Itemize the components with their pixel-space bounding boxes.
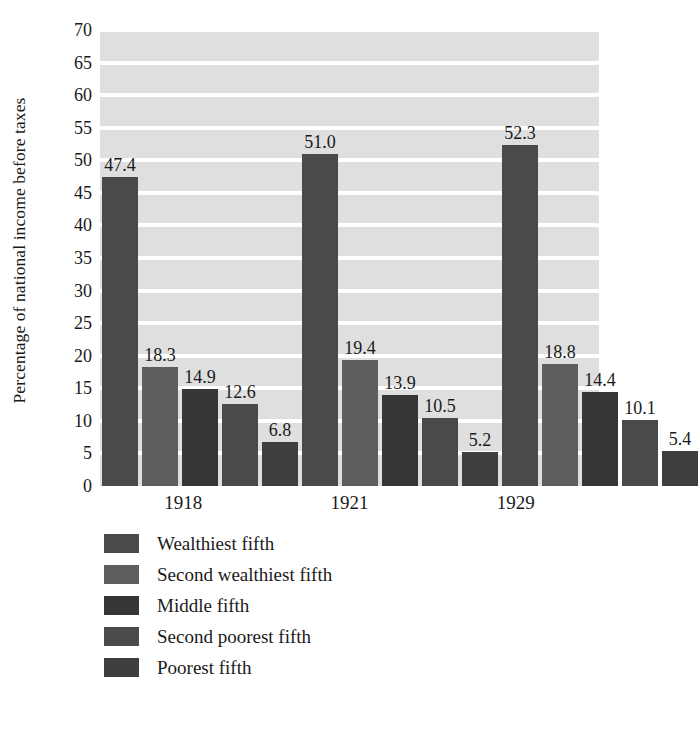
bar-value-label: 18.8 xyxy=(544,343,576,361)
y-tick-label: 35 xyxy=(74,249,92,267)
bar[interactable] xyxy=(142,367,178,486)
y-tick-label: 60 xyxy=(74,86,92,104)
bar-value-label: 5.4 xyxy=(669,430,692,448)
y-tick-label: 5 xyxy=(83,444,92,462)
bar[interactable] xyxy=(462,452,498,486)
bar-value-label: 13.9 xyxy=(384,374,416,392)
bar-column: 18.8 xyxy=(542,30,578,486)
legend-item[interactable]: Middle fifth xyxy=(104,590,504,621)
bar-value-label: 10.1 xyxy=(624,399,656,417)
legend-item[interactable]: Wealthiest fifth xyxy=(104,528,504,559)
bar-column: 52.3 xyxy=(502,30,538,486)
y-tick-label: 30 xyxy=(74,282,92,300)
bar-value-label: 47.4 xyxy=(104,156,136,174)
bar-column: 12.6 xyxy=(222,30,258,486)
bar[interactable] xyxy=(422,418,458,486)
y-tick-label: 20 xyxy=(74,347,92,365)
bar-column: 5.2 xyxy=(462,30,498,486)
x-axis-tick-labels: 191819211929 xyxy=(100,492,599,522)
bar-value-label: 14.4 xyxy=(584,371,616,389)
legend-swatch xyxy=(104,596,139,615)
bar-value-label: 10.5 xyxy=(424,397,456,415)
legend-item[interactable]: Poorest fifth xyxy=(104,652,504,683)
bar-value-label: 19.4 xyxy=(344,339,376,357)
y-axis-tick-labels: 7065605550454035302520151050 xyxy=(40,30,98,486)
legend-swatch xyxy=(104,534,139,553)
bar[interactable] xyxy=(622,420,658,486)
x-tick-label: 1918 xyxy=(100,492,266,522)
bar-group: 51.019.413.910.55.2 xyxy=(300,30,500,486)
plot-area: 47.418.314.912.66.851.019.413.910.55.252… xyxy=(100,30,599,486)
y-tick-label: 10 xyxy=(74,412,92,430)
legend-swatch xyxy=(104,565,139,584)
bar-column: 14.9 xyxy=(182,30,218,486)
bar[interactable] xyxy=(662,451,698,486)
bar-value-label: 5.2 xyxy=(469,431,492,449)
x-tick-label: 1921 xyxy=(266,492,432,522)
y-tick-label: 65 xyxy=(74,54,92,72)
bar-column: 18.3 xyxy=(142,30,178,486)
y-tick-label: 50 xyxy=(74,151,92,169)
bar[interactable] xyxy=(382,395,418,486)
bar-value-label: 6.8 xyxy=(269,421,292,439)
y-tick-label: 40 xyxy=(74,216,92,234)
bar-group: 47.418.314.912.66.8 xyxy=(100,30,300,486)
bar-value-label: 51.0 xyxy=(304,133,336,151)
legend-label: Middle fifth xyxy=(157,596,249,615)
legend-item[interactable]: Second poorest fifth xyxy=(104,621,504,652)
bar[interactable] xyxy=(342,360,378,486)
bar-column: 10.1 xyxy=(622,30,658,486)
bars-layer: 47.418.314.912.66.851.019.413.910.55.252… xyxy=(100,30,599,486)
bar-column: 51.0 xyxy=(302,30,338,486)
bar[interactable] xyxy=(182,389,218,486)
bar-column: 6.8 xyxy=(262,30,298,486)
bar-column: 13.9 xyxy=(382,30,418,486)
legend-label: Wealthiest fifth xyxy=(157,534,274,553)
bar-column: 47.4 xyxy=(102,30,138,486)
bar[interactable] xyxy=(102,177,138,486)
bar[interactable] xyxy=(582,392,618,486)
bar-column: 19.4 xyxy=(342,30,378,486)
bar-value-label: 18.3 xyxy=(144,346,176,364)
y-tick-label: 55 xyxy=(74,119,92,137)
legend-label: Second wealthiest fifth xyxy=(157,565,332,584)
y-axis-title: Percentage of national income before tax… xyxy=(0,0,40,500)
bar[interactable] xyxy=(542,364,578,486)
bar-column: 5.4 xyxy=(662,30,698,486)
bar-value-label: 14.9 xyxy=(184,368,216,386)
legend-swatch xyxy=(104,658,139,677)
bar-value-label: 12.6 xyxy=(224,383,256,401)
bar[interactable] xyxy=(262,442,298,486)
legend-label: Poorest fifth xyxy=(157,658,251,677)
legend-item[interactable]: Second wealthiest fifth xyxy=(104,559,504,590)
legend-swatch xyxy=(104,627,139,646)
y-tick-label: 0 xyxy=(83,477,92,495)
y-tick-label: 70 xyxy=(74,21,92,39)
bar[interactable] xyxy=(302,154,338,486)
x-tick-label: 1929 xyxy=(433,492,599,522)
y-tick-label: 25 xyxy=(74,314,92,332)
bar[interactable] xyxy=(502,145,538,486)
bar-column: 14.4 xyxy=(582,30,618,486)
legend-label: Second poorest fifth xyxy=(157,627,311,646)
chart-legend: Wealthiest fifthSecond wealthiest fifthM… xyxy=(104,528,504,683)
bar-group: 52.318.814.410.15.4 xyxy=(500,30,700,486)
bar-value-label: 52.3 xyxy=(504,124,536,142)
y-tick-label: 15 xyxy=(74,379,92,397)
y-tick-label: 45 xyxy=(74,184,92,202)
y-axis-title-text: Percentage of national income before tax… xyxy=(10,97,31,403)
bar[interactable] xyxy=(222,404,258,486)
bar-column: 10.5 xyxy=(422,30,458,486)
